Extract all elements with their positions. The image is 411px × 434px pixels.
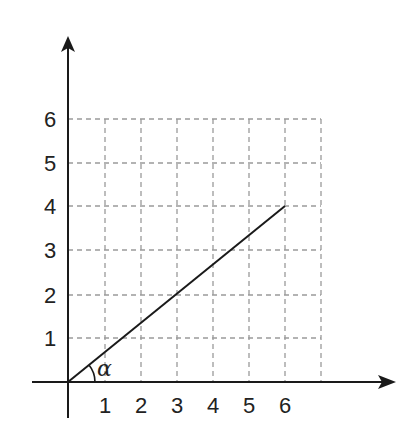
y-tick-2: 2 (44, 283, 56, 308)
y-tick-5: 5 (44, 151, 56, 176)
x-tick-3: 3 (171, 393, 183, 418)
grid (68, 119, 321, 382)
coordinate-diagram: α 1 2 3 4 5 6 1 2 3 4 5 6 (0, 0, 411, 434)
x-tick-4: 4 (207, 393, 219, 418)
y-tick-3: 3 (44, 238, 56, 263)
x-tick-6: 6 (279, 393, 291, 418)
x-tick-1: 1 (99, 393, 111, 418)
x-tick-labels: 1 2 3 4 5 6 (99, 393, 291, 418)
angle-label: α (97, 356, 112, 381)
y-tick-6: 6 (44, 107, 56, 132)
x-tick-2: 2 (135, 393, 147, 418)
angle-arc (89, 365, 95, 382)
y-tick-4: 4 (44, 194, 56, 219)
y-tick-labels: 1 2 3 4 5 6 (44, 107, 56, 351)
y-tick-1: 1 (44, 326, 56, 351)
x-tick-5: 5 (243, 393, 255, 418)
